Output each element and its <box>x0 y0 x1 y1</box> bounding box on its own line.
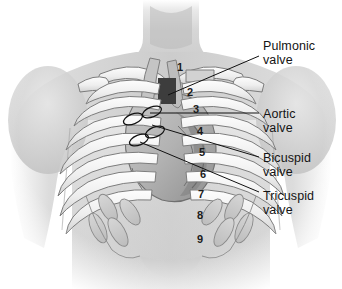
rib-number-9: 9 <box>197 234 203 245</box>
rib-number-4: 4 <box>197 126 203 137</box>
rib-number-5: 5 <box>199 147 205 158</box>
thorax-valve-diagram: Pulmonic valveAortic valveBicuspid valve… <box>0 0 342 289</box>
rib-number-1: 1 <box>177 62 183 73</box>
label-tricuspid: Tricuspid valve <box>263 190 314 217</box>
rib-number-7: 7 <box>198 189 204 200</box>
rib-number-8: 8 <box>197 210 203 221</box>
rib-number-2: 2 <box>187 87 193 98</box>
rib-number-6: 6 <box>200 169 206 180</box>
label-bicuspid: Bicuspid valve <box>263 152 311 179</box>
rib-number-3: 3 <box>193 104 199 115</box>
label-pulmonic: Pulmonic valve <box>263 40 315 67</box>
label-aortic: Aortic valve <box>263 108 296 135</box>
